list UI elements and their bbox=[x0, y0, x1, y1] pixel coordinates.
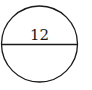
diameter-label: 12 bbox=[30, 26, 49, 44]
circle-diagram: 12 bbox=[0, 0, 92, 90]
